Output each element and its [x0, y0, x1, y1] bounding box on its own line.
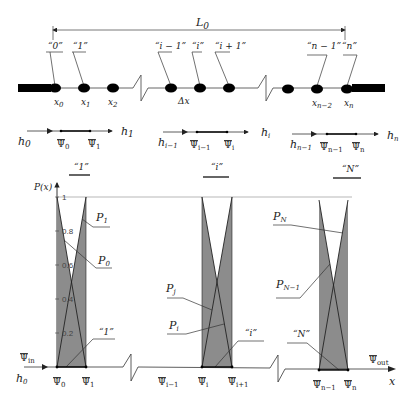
svg-text:xn−2: xn−2: [312, 98, 332, 110]
svg-text:0.6: 0.6: [62, 261, 74, 270]
svg-text:Ψ1: Ψ1: [82, 377, 94, 389]
node-label-n: “n”: [342, 41, 357, 51]
svg-text:x2: x2: [108, 97, 118, 109]
svg-text:“i”: “i”: [245, 328, 257, 338]
svg-text:xn: xn: [344, 98, 354, 110]
node-2: [107, 84, 119, 93]
svg-text:Ψout: Ψout: [369, 355, 389, 367]
svg-text:Ψn: Ψn: [344, 380, 357, 392]
svg-text:hi: hi: [261, 126, 270, 140]
node-0: [49, 84, 61, 93]
finite-element-diagram: L0 “0” “1” “i − 1” “i” “i + 1” “n − 1” “…: [0, 0, 413, 405]
svg-text:1: 1: [62, 193, 67, 202]
svg-text:hi−1: hi−1: [158, 136, 178, 150]
svg-text:“1”: “1”: [99, 327, 114, 337]
svg-text:Ψ0: Ψ0: [53, 377, 65, 389]
svg-text:Ψn−1: Ψn−1: [313, 380, 336, 392]
svg-text:x0: x0: [54, 97, 64, 109]
svg-text:“1”: “1”: [74, 162, 89, 172]
node-labels: “0” “1” “i − 1” “i” “i + 1” “n − 1” “n”: [46, 41, 357, 86]
svg-text:P1: P1: [95, 211, 108, 225]
svg-text:Pj: Pj: [165, 282, 176, 296]
length-dimension: L0: [53, 16, 345, 40]
svg-text:x1: x1: [81, 97, 91, 109]
svg-text:Ψi: Ψi: [198, 377, 209, 389]
svg-text:“i”: “i”: [211, 162, 223, 172]
svg-text:“N”: “N”: [342, 164, 359, 174]
svg-text:Ψn: Ψn: [352, 142, 365, 154]
length-label: L0: [195, 16, 209, 31]
svg-text:PN: PN: [272, 210, 287, 224]
svg-text:h0: h0: [18, 135, 31, 149]
svg-text:0.4: 0.4: [62, 295, 74, 304]
svg-text:PN−1: PN−1: [275, 278, 300, 292]
left-boundary-bar: [18, 84, 51, 92]
svg-text:P0: P0: [97, 254, 110, 268]
node-i-minus-1: [165, 84, 177, 93]
svg-text:Ψi−1: Ψi−1: [158, 377, 178, 389]
svg-text:h1: h1: [121, 125, 134, 139]
svg-text:Ψi−1: Ψi−1: [190, 140, 210, 152]
node-label-i: “i”: [192, 41, 204, 51]
svg-text:h0: h0: [16, 372, 28, 386]
node-i-plus-1: [223, 84, 235, 93]
node-n-minus-2: [311, 85, 323, 94]
svg-text:x: x: [389, 375, 396, 388]
svg-text:Δx: Δx: [177, 96, 190, 106]
node-label-0: “0”: [48, 41, 63, 51]
svg-text:Ψ0: Ψ0: [57, 139, 69, 151]
node-i: [194, 84, 206, 93]
node-label-i-minus-1: “i − 1”: [155, 41, 186, 51]
svg-text:Ψi: Ψi: [224, 140, 235, 152]
right-boundary-bar: [352, 84, 385, 92]
svg-text:Ψ1: Ψ1: [88, 139, 100, 151]
svg-text:Ψin: Ψin: [20, 353, 35, 365]
svg-text:Ψn−1: Ψn−1: [320, 142, 343, 154]
svg-text:hn: hn: [387, 129, 399, 143]
rod: x0 x1 x2 Δx xn−2 xn: [18, 75, 385, 110]
node-n: [341, 85, 353, 94]
svg-text:hn−1: hn−1: [290, 138, 312, 152]
flux-rows: h0 h1 Ψ0 Ψ1 hi−1 hi Ψi−1 Ψi hn−1 hn Ψn−1…: [18, 125, 399, 154]
node-1: [78, 84, 90, 93]
svg-text:“N”: “N”: [293, 329, 310, 339]
element-labels: “1” “i” “N”: [69, 162, 361, 178]
svg-text:0.8: 0.8: [62, 227, 74, 236]
svg-text:0.2: 0.2: [62, 329, 74, 338]
node-label-1: “1”: [73, 41, 88, 51]
node-label-n-minus-1: “n − 1”: [307, 41, 341, 51]
svg-text:Ψi+1: Ψi+1: [228, 377, 248, 389]
svg-text:P(x): P(x): [33, 182, 53, 192]
node-n-minus-3: [282, 85, 294, 94]
shape-function-chart: P(x) 1 0.8 0.6 0.4 0.2: [16, 182, 396, 392]
svg-text:Pi: Pi: [168, 319, 179, 333]
node-label-i-plus-1: “i + 1”: [215, 41, 246, 51]
